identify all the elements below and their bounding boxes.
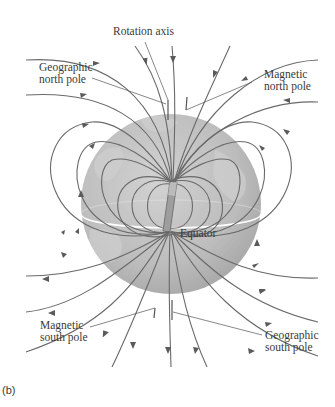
- label-magnetic-north-pole: Magnetic north pole: [264, 68, 311, 92]
- label-line: Magnetic: [40, 319, 88, 331]
- label-line: Magnetic: [264, 68, 311, 80]
- label-line: Geographic: [39, 61, 93, 73]
- label-line: north pole: [39, 73, 93, 85]
- label-line: south pole: [40, 331, 88, 343]
- label-equator: Equator: [180, 227, 216, 239]
- earth-magnetic-field-diagram: Rotation axis Geographic north pole Magn…: [0, 0, 335, 407]
- label-magnetic-south-pole: Magnetic south pole: [40, 319, 88, 343]
- label-rotation-axis: Rotation axis: [113, 25, 174, 37]
- label-line: north pole: [264, 80, 311, 92]
- label-geographic-south-pole: Geographic south pole: [265, 329, 319, 353]
- label-geographic-north-pole: Geographic north pole: [39, 61, 93, 85]
- label-line: south pole: [265, 341, 319, 353]
- panel-label: (b): [2, 384, 15, 396]
- label-line: Geographic: [265, 329, 319, 341]
